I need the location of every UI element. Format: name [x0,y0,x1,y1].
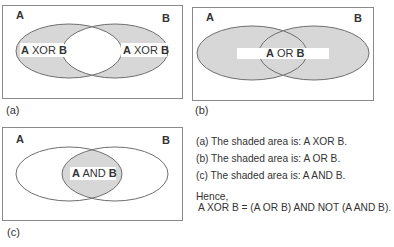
region-label-right: A XOR B [123,44,169,56]
set-b-label: B [162,12,170,24]
note-b: (b) The shaded area is: A OR B. [196,154,340,164]
set-a-label: A [206,11,214,23]
venn-panel-c: A B A AND B (c) [0,122,190,224]
panel-caption: (b) [195,104,208,116]
set-b-label: B [162,134,170,146]
venn-panel-b: A B A OR B (b) [190,0,380,102]
set-b-label: B [354,12,362,24]
region-label-intersection: A AND B [72,167,117,179]
set-a-label: A [16,9,24,21]
region-label-left: A XOR B [21,44,67,56]
note-c: (c) The shaded area is: A AND B. [196,171,345,181]
note-conclusion: A XOR B = (A OR B) AND NOT (A AND B). [198,203,391,213]
note-hence: Hence, [196,192,228,202]
set-a-label: A [16,133,24,145]
region-label-union: A OR B [266,47,305,59]
panel-caption: (c) [7,226,20,238]
venn-panel-a: A B A XOR B A XOR B (a) [0,0,190,100]
note-a: (a) The shaded area is: A XOR B. [196,137,347,147]
panel-caption: (a) [6,104,19,116]
